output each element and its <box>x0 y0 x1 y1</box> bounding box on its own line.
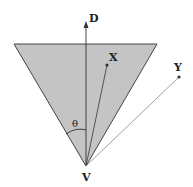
label-v: V <box>81 171 91 184</box>
label-d: D <box>89 12 99 25</box>
label-x: X <box>109 51 118 64</box>
direction-arrow-head-icon <box>84 21 89 28</box>
view-cone <box>14 44 157 166</box>
visibility-cone-diagram: D X Y V θ <box>0 0 193 187</box>
point-y-marker <box>177 75 180 78</box>
label-y: Y <box>173 61 182 74</box>
label-theta: θ <box>72 118 78 129</box>
